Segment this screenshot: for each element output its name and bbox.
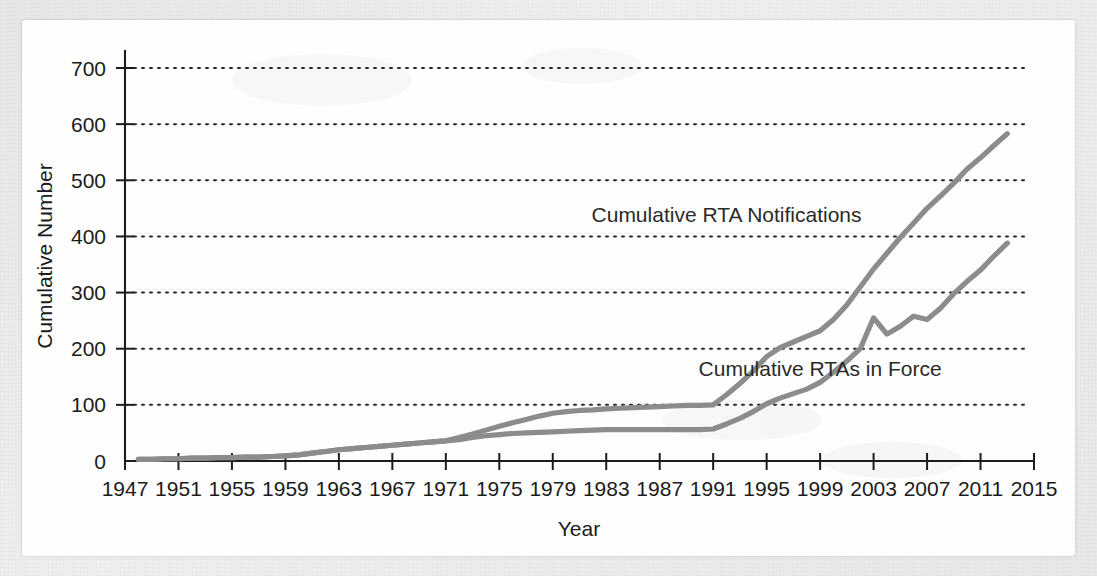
x-tick-label: 1979 bbox=[529, 477, 576, 500]
x-tick-label: 1959 bbox=[262, 477, 309, 500]
line-chart: 0100200300400500600700 19471951195519591… bbox=[22, 20, 1075, 556]
series-annotation-notifications: Cumulative RTA Notifications bbox=[592, 203, 862, 226]
x-tick-label: 1967 bbox=[369, 477, 416, 500]
y-tick-label: 300 bbox=[71, 281, 106, 304]
scan-ghost-marks bbox=[232, 48, 962, 478]
y-tick-label: 200 bbox=[71, 337, 106, 360]
y-tick-label: 0 bbox=[94, 450, 106, 473]
x-tick-label: 1951 bbox=[155, 477, 202, 500]
x-tick-label: 1963 bbox=[316, 477, 363, 500]
x-axis-title: Year bbox=[558, 517, 600, 540]
x-tick-label: 1955 bbox=[209, 477, 256, 500]
x-tick-label: 1983 bbox=[583, 477, 630, 500]
x-tick-label: 1995 bbox=[743, 477, 790, 500]
y-tick-label: 500 bbox=[71, 169, 106, 192]
y-tick-label: 100 bbox=[71, 393, 106, 416]
figure-card: 0100200300400500600700 19471951195519591… bbox=[22, 20, 1075, 556]
series-line-cumulative-rta-notifications bbox=[138, 134, 1007, 460]
x-tick-label: 1999 bbox=[797, 477, 844, 500]
gridlines-group bbox=[134, 68, 1026, 405]
x-tick-label: 2003 bbox=[850, 477, 897, 500]
x-tick-label: 1991 bbox=[690, 477, 737, 500]
x-tick-label: 2007 bbox=[904, 477, 951, 500]
y-axis-title: Cumulative Number bbox=[33, 163, 56, 349]
x-tick-label: 1987 bbox=[636, 477, 683, 500]
x-tick-label: 1975 bbox=[476, 477, 523, 500]
y-tick-label: 600 bbox=[71, 113, 106, 136]
x-tick-label: 2011 bbox=[958, 477, 1003, 500]
x-tick-label: 1971 bbox=[422, 477, 469, 500]
series-line-cumulative-rtas-in-force bbox=[138, 243, 1007, 459]
y-tick-label: 400 bbox=[71, 225, 106, 248]
series-annotation-in-force: Cumulative RTAs in Force bbox=[699, 357, 942, 380]
x-tick-label: 2015 bbox=[1011, 477, 1058, 500]
y-tick-label: 700 bbox=[71, 57, 106, 80]
x-tick-label: 1947 bbox=[102, 477, 149, 500]
